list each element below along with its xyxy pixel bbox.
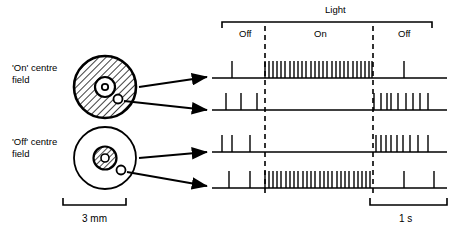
receptive-field-on-centre [74,56,136,118]
arrow-on-centre-to-trace1 [139,77,207,87]
off-centre-field-label: 'Off' centre field [12,136,57,159]
receptive-field-off-centre [74,127,136,189]
phase-markers [265,26,373,196]
phase-label-on: On [314,28,327,40]
scale-bars [63,198,447,205]
arrow-on-surround-to-trace2 [124,101,207,110]
trace-off-surround [212,171,447,188]
trace-off-centre [212,135,447,152]
phase-label-off-before: Off [239,28,252,40]
time-scale [370,198,447,205]
off-centre-electrode-dot [101,154,109,162]
arrow-off-surround-to-trace4 [127,172,207,186]
on-centre-electrode-dot [102,84,108,90]
phase-label-off-after: Off [398,28,411,40]
arrow-off-centre-to-trace3 [139,152,207,158]
spatial-scale-label: 3 mm [82,213,107,225]
off-surround-electrode-dot [117,166,126,175]
spatial-scale [63,198,126,205]
trace-on-centre [212,61,447,78]
figure-canvas [0,0,463,236]
trace-on-surround [212,93,447,110]
light-title-label: Light [325,4,346,16]
on-centre-field-label: 'On' centre field [12,62,57,85]
spike-traces [212,61,447,188]
on-surround-electrode-dot [114,95,123,104]
time-scale-label: 1 s [399,213,412,225]
